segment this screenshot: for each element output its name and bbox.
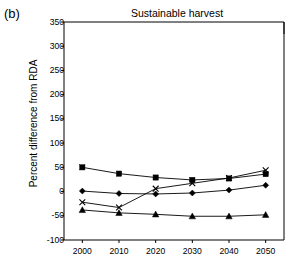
x-tick-label: 2000	[73, 246, 92, 256]
x-tick-labels: 200020102020203020402050	[0, 0, 290, 265]
x-tick-label: 2040	[219, 246, 238, 256]
figure-panel: (b) Sustainable harvest Percent differen…	[0, 0, 290, 265]
x-tick-label: 2050	[256, 246, 275, 256]
x-tick-label: 2030	[183, 246, 202, 256]
x-tick-label: 2010	[109, 246, 128, 256]
x-tick-label: 2020	[146, 246, 165, 256]
